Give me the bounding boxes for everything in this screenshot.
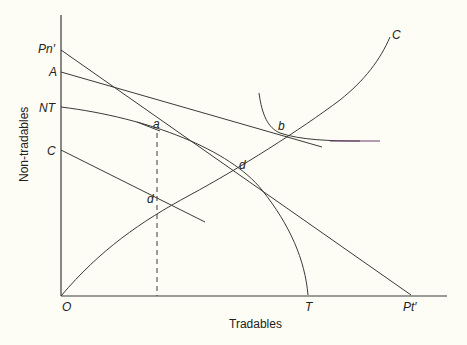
label-t: T [305, 301, 312, 313]
label-pt: Pt′ [403, 301, 417, 313]
label-c-axis: C [47, 145, 56, 157]
indifference-curve [259, 93, 360, 141]
point-label-d-lower: d [147, 193, 154, 205]
x-axis-title: Tradables [229, 318, 282, 330]
label-a-axis: A [49, 66, 57, 78]
budget-line-c [61, 150, 205, 222]
curve-label-c: C [392, 29, 401, 41]
budget-line-a [61, 72, 322, 147]
y-axis-title: Non-tradables [18, 107, 30, 182]
point-label-d-upper: d [239, 159, 246, 171]
diagram-canvas [0, 0, 467, 345]
consumption-curve [61, 37, 390, 296]
label-nt: NT [39, 102, 55, 114]
point-label-a: a [153, 118, 160, 130]
point-label-b: b [278, 120, 285, 132]
ppf-curve [61, 107, 308, 295]
label-pn: Pn′ [38, 43, 55, 55]
label-origin: O [62, 301, 71, 313]
